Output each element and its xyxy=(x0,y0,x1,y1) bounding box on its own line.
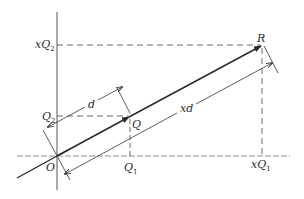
label-xq1: xQ1 xyxy=(251,158,271,173)
dim-tick-q xyxy=(117,88,130,113)
label-origin: O xyxy=(46,161,55,174)
ray-extension xyxy=(57,150,68,156)
label-xq2: xQ2 xyxy=(35,38,55,53)
label-q: Q xyxy=(132,118,141,131)
dim-d-right xyxy=(98,87,122,100)
label-q1: Q1 xyxy=(124,161,138,176)
label-q2: Q2 xyxy=(42,110,56,125)
vector-diagram: d xd O Q R Q1 xQ1 Q2 xQ2 xyxy=(0,0,304,199)
label-xd: xd xyxy=(180,102,193,115)
dim-xd-right xyxy=(196,63,272,104)
dim-tick-r xyxy=(264,46,278,73)
label-r: R xyxy=(256,32,265,45)
label-d: d xyxy=(88,98,95,111)
vector-qr xyxy=(129,46,261,117)
